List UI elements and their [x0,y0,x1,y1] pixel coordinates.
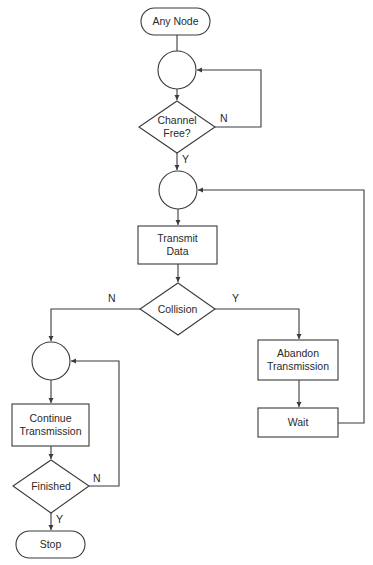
edge-label-finished-no: N [93,472,101,484]
wait-label: Wait [258,416,338,429]
junction-connector-3 [32,342,70,380]
edge-label-channel-yes: Y [182,153,189,165]
channel-free-label-line1: Channel [139,114,215,127]
finished-label: Finished [13,480,89,493]
channel-free-label-line2: Free? [139,127,215,140]
any-node-label: Any Node [141,15,210,28]
edge-label-channel-no: N [220,112,228,124]
abandon-transmission-label: Abandon Transmission [258,347,338,373]
continue-transmission-label-line1: Continue [12,412,89,425]
edge-label-finished-yes: Y [56,513,63,525]
edge-label-collision-no: N [108,292,116,304]
abandon-transmission-label-line1: Abandon [258,347,338,360]
junction-connector-2 [159,171,197,209]
transmit-data-label: Transmit Data [138,232,217,258]
transmit-data-label-line2: Data [138,245,217,258]
stop-label: Stop [16,538,85,551]
transmit-data-label-line1: Transmit [138,232,217,245]
continue-transmission-label: Continue Transmission [12,412,89,438]
collision-label: Collision [140,303,215,316]
channel-free-label: Channel Free? [139,114,215,140]
junction-connector-1 [158,51,196,89]
edge-label-collision-yes: Y [232,292,239,304]
continue-transmission-label-line2: Transmission [12,425,89,438]
abandon-transmission-label-line2: Transmission [258,360,338,373]
